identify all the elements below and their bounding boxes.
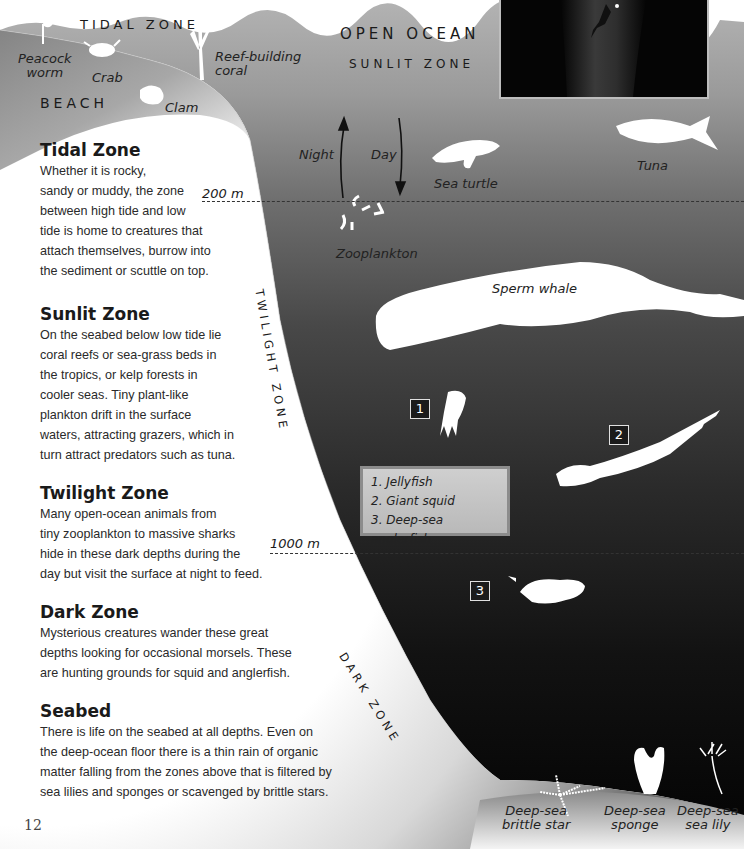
brittle-star-label: Deep-sea brittle star xyxy=(502,804,570,832)
key-item: 1. Jellyfish xyxy=(371,473,499,492)
tidal-zone-heading: TIDAL ZONE xyxy=(80,17,199,32)
marker-2-giant-squid: 2 xyxy=(609,425,629,445)
peacock-worm-label-line2: worm xyxy=(18,66,72,80)
reef-coral-label-line1: Reef-building xyxy=(215,50,301,64)
open-ocean-heading: OPEN OCEAN xyxy=(340,25,480,43)
brittle-star-label-line1: Deep-sea xyxy=(502,804,570,818)
section-line: waters, attracting grazers, which in xyxy=(40,425,340,445)
creature-key: 1. Jellyfish 2. Giant squid 3. Deep-sea … xyxy=(360,466,510,536)
sea-turtle-label: Sea turtle xyxy=(434,177,498,191)
day-label: Day xyxy=(371,148,397,162)
section-title: Twilight Zone xyxy=(40,482,340,504)
section-line: cooler seas. Tiny plant-like xyxy=(40,385,340,405)
section-line: are hunting grounds for squid and angler… xyxy=(40,663,340,683)
tuna-label: Tuna xyxy=(637,159,668,173)
section-line: Mysterious creatures wander these great xyxy=(40,623,340,643)
key-item: 2. Giant squid xyxy=(371,492,499,511)
marker-1-jellyfish: 1 xyxy=(410,399,430,419)
section-sunlit-zone: Sunlit Zone On the seabed below low tide… xyxy=(40,303,340,465)
section-line: tiny zooplankton to massive sharks xyxy=(40,524,340,544)
section-line: sea lilies and sponges or scavenged by b… xyxy=(40,782,380,802)
section-line: depths looking for occasional morsels. T… xyxy=(40,643,340,663)
sponge-label-line1: Deep-sea xyxy=(604,804,666,818)
sperm-whale-label: Sperm whale xyxy=(492,282,577,296)
section-line: between high tide and low xyxy=(40,201,340,221)
peacock-worm-label: Peacock worm xyxy=(18,52,72,80)
beach-heading: BEACH xyxy=(40,95,108,111)
section-line: On the seabed below low tide lie xyxy=(40,325,340,345)
reef-coral-label-line2: coral xyxy=(215,64,301,78)
crab-label: Crab xyxy=(92,71,123,85)
reef-coral-label: Reef-building coral xyxy=(215,50,301,78)
clam-label: Clam xyxy=(165,101,198,115)
sponge-label-line2: sponge xyxy=(604,818,666,832)
section-title: Sunlit Zone xyxy=(40,303,340,325)
key-item: 3. Deep-sea anglerfish xyxy=(371,511,499,549)
peacock-worm-label-line1: Peacock xyxy=(18,52,72,66)
section-line: matter falling from the zones above that… xyxy=(40,762,380,782)
section-dark-zone: Dark Zone Mysterious creatures wander th… xyxy=(40,601,340,683)
section-line: There is life on the seabed at all depth… xyxy=(40,722,380,742)
section-line: turn attract predators such as tuna. xyxy=(40,445,340,465)
section-title: Dark Zone xyxy=(40,601,340,623)
zooplankton-label: Zooplankton xyxy=(336,247,418,261)
sea-lily-label-line1: Deep-sea xyxy=(677,804,739,818)
section-line: attach themselves, burrow into xyxy=(40,241,340,261)
section-line: the deep-ocean floor there is a thin rai… xyxy=(40,742,380,762)
section-line: plankton drift in the surface xyxy=(40,405,340,425)
section-line: Whether it is rocky, xyxy=(40,161,340,181)
section-line: coral reefs or sea-grass beds in xyxy=(40,345,340,365)
section-title: Seabed xyxy=(40,700,380,722)
section-seabed: Seabed There is life on the seabed at al… xyxy=(40,700,380,802)
section-line: Many open-ocean animals from xyxy=(40,504,340,524)
brittle-star-label-line2: brittle star xyxy=(502,818,570,832)
section-line: the sediment or scuttle on top. xyxy=(40,261,340,281)
section-line: sandy or muddy, the zone xyxy=(40,181,340,201)
marker-3-anglerfish: 3 xyxy=(470,581,490,601)
sea-lily-label-line2: sea lily xyxy=(677,818,739,832)
section-line: the tropics, or kelp forests in xyxy=(40,365,340,385)
section-tidal-zone: Tidal Zone Whether it is rocky, sandy or… xyxy=(40,139,340,281)
section-line: tide is home to creatures that xyxy=(40,221,340,241)
section-line: day but visit the surface at night to fe… xyxy=(40,564,340,584)
page-number: 12 xyxy=(24,817,42,833)
sponge-label: Deep-sea sponge xyxy=(604,804,666,832)
sunlit-zone-heading: SUNLIT ZONE xyxy=(349,57,474,71)
section-line: hide in these dark depths during the xyxy=(40,544,340,564)
section-twilight-zone: Twilight Zone Many open-ocean animals fr… xyxy=(40,482,340,584)
diver-silhouette-icon xyxy=(501,0,707,97)
diver-photo xyxy=(499,0,709,99)
sea-lily-label: Deep-sea sea lily xyxy=(677,804,739,832)
depth-line-1000m xyxy=(270,553,744,554)
section-title: Tidal Zone xyxy=(40,139,340,161)
